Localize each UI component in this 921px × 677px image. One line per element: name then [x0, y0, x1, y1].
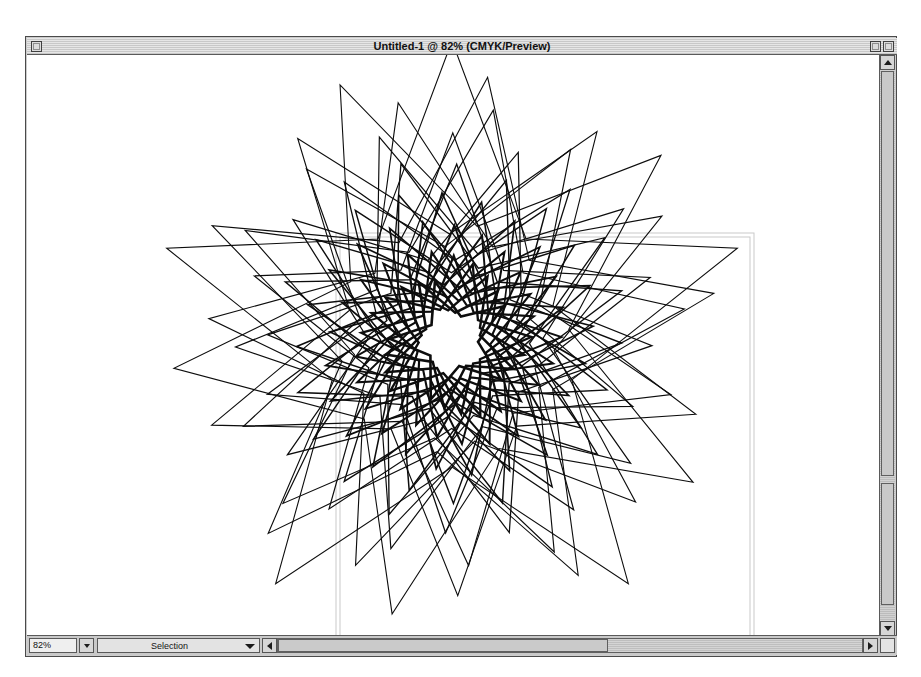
zoom-level-input[interactable]: 82% [29, 638, 77, 653]
zoom-box-icon[interactable] [870, 41, 881, 52]
triangle-right-icon [868, 642, 873, 650]
vertical-scroll-thumb[interactable] [881, 71, 894, 476]
horizontal-scroll-track[interactable] [277, 638, 863, 653]
window-resize-grow-box[interactable] [880, 638, 895, 653]
chevron-down-icon [84, 644, 90, 648]
scroll-right-button[interactable] [863, 638, 878, 653]
zoom-level-popup-button[interactable] [79, 638, 94, 653]
scroll-left-button[interactable] [262, 638, 277, 653]
scroll-down-button[interactable] [880, 621, 895, 636]
window-title: Untitled-1 @ 82% (CMYK/Preview) [27, 39, 897, 53]
collapse-box-icon[interactable] [883, 41, 894, 52]
chevron-down-icon [245, 644, 255, 649]
vertical-scroll-thumb-lower[interactable] [881, 483, 894, 605]
screen-background: Untitled-1 @ 82% (CMYK/Preview) [0, 0, 921, 677]
triangle-down-icon [884, 626, 892, 631]
vertical-scrollbar[interactable] [879, 55, 895, 636]
scroll-up-button[interactable] [880, 55, 895, 70]
document-window: Untitled-1 @ 82% (CMYK/Preview) [25, 36, 897, 657]
artwork-svg [27, 55, 880, 635]
status-info-popup[interactable]: Selection [97, 638, 260, 653]
artboard-canvas[interactable] [27, 55, 881, 636]
horizontal-scroll-thumb[interactable] [278, 639, 608, 652]
status-bar: 82% Selection [27, 635, 897, 655]
status-info-label: Selection [98, 639, 241, 653]
horizontal-scrollbar[interactable] [262, 638, 878, 653]
triangle-left-icon [267, 642, 272, 650]
title-bar[interactable]: Untitled-1 @ 82% (CMYK/Preview) [27, 38, 897, 55]
triangle-up-icon [884, 60, 892, 65]
